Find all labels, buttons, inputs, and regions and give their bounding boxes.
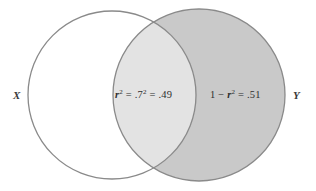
intersection-middle: = .7 [123, 89, 143, 100]
set-y-label: Y [293, 90, 300, 101]
venn-diagram-figure: X Y r2 = .72 = .49 1 − r2 = .51 [0, 0, 316, 191]
right-only-tail: = .51 [235, 89, 261, 100]
intersection-tail: = .49 [147, 89, 173, 100]
set-x-label: X [13, 90, 20, 101]
intersection-label: r2 = .72 = .49 [115, 90, 172, 101]
right-only-label: 1 − r2 = .51 [210, 90, 261, 101]
right-only-lead: 1 − [210, 89, 227, 100]
